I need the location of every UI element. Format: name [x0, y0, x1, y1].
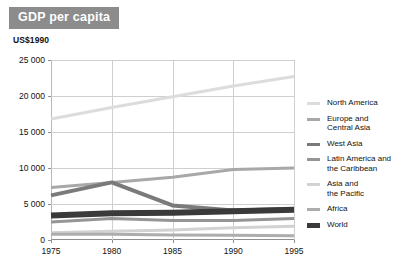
legend-item[interactable]: Africa — [307, 204, 405, 214]
data-series-layer — [51, 60, 294, 240]
legend-swatch-icon — [307, 102, 320, 105]
series-line — [51, 226, 294, 232]
y-axis-tick-label: 0 — [40, 235, 45, 245]
x-axis-tick-label: 1995 — [285, 246, 304, 256]
legend-swatch-icon — [307, 158, 320, 161]
y-axis-unit-label: US$1990 — [13, 35, 49, 45]
legend-swatch-icon — [307, 143, 320, 146]
legend-swatch-icon — [307, 223, 320, 228]
x-axis-tick-mark — [233, 240, 234, 243]
y-axis-tick-label: 25 000 — [19, 55, 45, 65]
x-axis-tick-mark — [112, 240, 113, 243]
x-axis-tick-label: 1985 — [163, 246, 182, 256]
series-line — [51, 234, 294, 235]
chart-legend: North AmericaEurope and Central AsiaWest… — [307, 98, 405, 235]
chart-title-badge: GDP per capita — [9, 7, 119, 29]
legend-item-label: North America — [327, 98, 378, 108]
legend-item[interactable]: West Asia — [307, 139, 405, 149]
legend-item-label: Europe and Central Asia — [327, 114, 370, 133]
y-axis-tick-label: 20 000 — [19, 91, 45, 101]
x-axis-tick-mark — [51, 240, 52, 243]
legend-swatch-icon — [307, 208, 320, 211]
legend-item-label: Latin America and the Caribbean — [327, 154, 391, 173]
series-line — [51, 168, 294, 187]
legend-swatch-icon — [307, 118, 320, 121]
series-line — [51, 210, 294, 216]
x-axis-tick-label: 1980 — [102, 246, 121, 256]
gridline-vertical — [294, 60, 295, 240]
legend-item[interactable]: Latin America and the Caribbean — [307, 154, 405, 173]
legend-item-label: Africa — [327, 204, 347, 214]
legend-item-label: World — [327, 220, 348, 230]
legend-item[interactable]: Asia and the Pacific — [307, 179, 405, 198]
x-axis-tick-mark — [294, 240, 295, 243]
y-axis-tick-label: 10 000 — [19, 163, 45, 173]
x-axis-tick-mark — [173, 240, 174, 243]
series-line — [51, 77, 294, 119]
legend-item[interactable]: World — [307, 220, 405, 230]
legend-item-label: West Asia — [327, 139, 362, 149]
y-axis-tick-label: 5 000 — [24, 199, 45, 209]
legend-item[interactable]: Europe and Central Asia — [307, 114, 405, 133]
plot-area: 05 00010 00015 00020 00025 000 197519801… — [51, 60, 294, 240]
gdp-per-capita-chart: GDP per capita US$1990 05 00010 00015 00… — [0, 0, 407, 270]
series-line — [51, 182, 294, 210]
y-axis-tick-label: 15 000 — [19, 127, 45, 137]
legend-item-label: Asia and the Pacific — [327, 179, 364, 198]
x-axis-tick-label: 1990 — [224, 246, 243, 256]
legend-item[interactable]: North America — [307, 98, 405, 108]
legend-swatch-icon — [307, 183, 320, 186]
series-line — [51, 218, 294, 222]
x-axis-tick-label: 1975 — [42, 246, 61, 256]
